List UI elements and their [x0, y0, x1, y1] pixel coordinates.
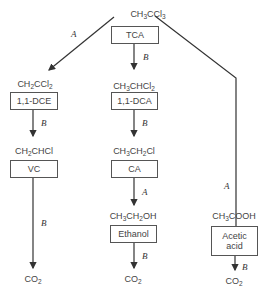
step-label: A — [142, 187, 148, 197]
ca-box: CA — [111, 160, 158, 178]
step-label: B — [41, 218, 47, 228]
step-label: B — [41, 118, 47, 128]
step-label: B — [142, 118, 148, 128]
ca-formula: CH3CH2Cl — [113, 146, 155, 159]
vc-formula: CH2CHCl — [15, 146, 53, 159]
arrow-tca-to-acetic — [155, 16, 236, 233]
ethanol-formula: CH3CH2OH — [110, 211, 157, 224]
dce-formula: CH2CCl2 — [17, 79, 52, 92]
acetic-acid-box: Acetic acid — [211, 226, 258, 256]
dce-box: 1,1-DCE — [10, 92, 58, 110]
pathway-label-left: A — [71, 29, 77, 39]
co2-left: CO2 — [24, 274, 41, 287]
dca-box: 1,1-DCA — [111, 92, 158, 110]
vc-box: VC — [10, 160, 58, 178]
pathway-label-right: A — [224, 181, 230, 191]
step-label: B — [142, 251, 148, 261]
tca-box: TCA — [111, 26, 159, 44]
ethanol-box: Ethanol — [110, 225, 157, 243]
step-label: B — [242, 262, 248, 272]
root-formula: CH3CCl3 — [130, 9, 165, 22]
co2-middle: CO2 — [124, 274, 141, 287]
co2-right: CO2 — [225, 276, 242, 289]
arrow-tca-to-dce — [49, 17, 114, 70]
acetic-formula: CH3COOH — [212, 211, 256, 224]
step-label: B — [143, 52, 149, 62]
